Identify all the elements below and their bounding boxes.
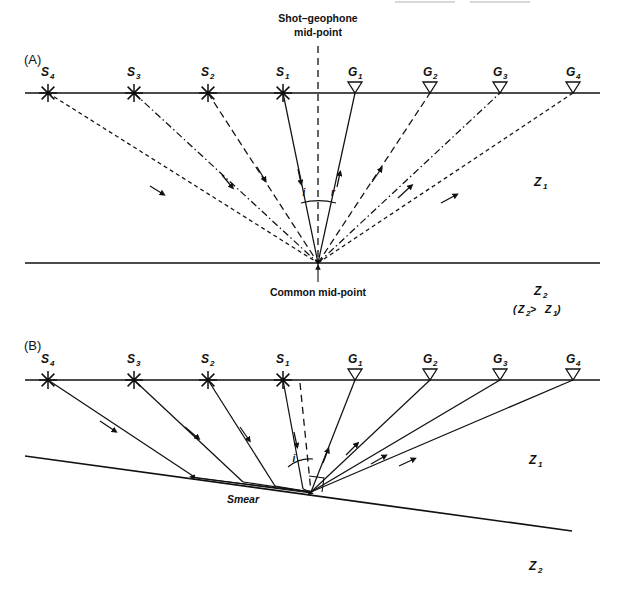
geophone-marker-b-g3[interactable] (493, 369, 507, 380)
ray-up-g3 (318, 93, 500, 263)
geophone-marker-g1[interactable] (348, 82, 362, 93)
zone-note-za: Z (517, 303, 525, 315)
station-label-g1-b-name: G (348, 352, 357, 366)
zone-note-a: ( Z 2 > Z 1 ) (513, 303, 561, 318)
zone-label-z1-b-name: Z (528, 453, 537, 467)
arrow-up-g4 (441, 195, 456, 203)
geophone-marker-g3[interactable] (493, 82, 507, 93)
arrow-down-s4 (150, 186, 163, 194)
panel-a (25, 46, 600, 282)
station-label-g3-b-sub: 3 (503, 359, 508, 368)
station-label-s4-b: S 4 (41, 352, 55, 368)
station-label-s1-a: S 1 (276, 65, 290, 81)
arrow-down-s3 (222, 175, 232, 187)
geophone-marker-b-g2[interactable] (423, 369, 437, 380)
station-label-s4-a-sub: 4 (49, 72, 55, 81)
station-label-g1-a: G 1 (348, 65, 363, 81)
geophone-marker-g4[interactable] (566, 82, 580, 93)
zone-label-z2-b-name: Z (528, 559, 537, 573)
station-label-s1-b-sub: 1 (285, 359, 290, 368)
station-label-g4-b-name: G (566, 352, 575, 366)
arrow-up-g2 (372, 169, 381, 182)
station-label-g4-b: G 4 (566, 352, 581, 368)
ray-up-g1 (318, 93, 355, 263)
zone-label-z1-a-name: Z (533, 175, 542, 189)
angle-r-label-a: r (331, 187, 336, 198)
station-label-g4-a-name: G (566, 65, 575, 79)
station-label-g2-b-name: G (423, 352, 432, 366)
zone-label-z2-b: Z 2 (528, 559, 543, 575)
shot-marker-s3[interactable] (125, 84, 143, 102)
geophone-marker-b-g1[interactable] (348, 369, 362, 380)
station-label-g2-b: G 2 (423, 352, 438, 368)
ray-up-b-g1 (311, 380, 355, 492)
panel-b (25, 369, 600, 531)
station-label-g2-a-sub: 2 (432, 72, 438, 81)
station-label-s4-b-sub: 4 (49, 359, 55, 368)
station-label-s3-b-sub: 3 (136, 359, 141, 368)
station-label-s4-a-name: S (41, 65, 49, 79)
panel-label-a: (A) (24, 52, 41, 67)
zone-label-z2-a: Z 2 (533, 284, 548, 300)
station-label-g3-a-sub: 3 (503, 72, 508, 81)
station-label-s3-a: S 3 (127, 65, 141, 81)
station-label-s2-a-sub: 2 (209, 72, 215, 81)
station-label-g1-b-sub: 1 (358, 359, 363, 368)
station-label-s2-b-name: S (201, 352, 209, 366)
shot-marker-b-s2[interactable] (199, 371, 217, 389)
station-label-g3-a: G 3 (493, 65, 508, 81)
station-label-s1-b: S 1 (276, 352, 290, 368)
shot-marker-b-s4[interactable] (39, 371, 57, 389)
station-label-s3-b: S 3 (127, 352, 141, 368)
shot-marker-s2[interactable] (199, 84, 217, 102)
zone-label-z1-b: Z 1 (528, 453, 543, 469)
common-midpoint-caption: Common mid-point (270, 286, 367, 298)
station-label-g1-a-name: G (348, 65, 357, 79)
station-label-s1-a-name: S (276, 65, 284, 79)
station-label-g2-a-name: G (423, 65, 432, 79)
station-label-g4-b-sub: 4 (575, 359, 581, 368)
cmp-ray-diagram: (A) (B) Shot–geophone mid-point Common m… (0, 0, 618, 591)
smear-label: Smear (227, 493, 260, 505)
zone-note-zb: Z (544, 303, 552, 315)
station-label-g2-b-sub: 2 (432, 359, 438, 368)
arrow-up-g3 (398, 186, 411, 198)
arrow-down-s2 (257, 167, 265, 180)
station-label-s3-b-name: S (127, 352, 135, 366)
station-label-s2-a-name: S (201, 65, 209, 79)
zone-note-close: ) (556, 303, 561, 315)
shot-marker-b-s3[interactable] (125, 371, 143, 389)
smear-extent-arrow (192, 477, 311, 493)
ray-up-b-g2 (311, 380, 430, 492)
zone-label-z2-b-sub: 2 (537, 566, 543, 575)
zone-label-z1-a: Z 1 (533, 175, 548, 191)
ray-up-b-g4 (311, 380, 573, 492)
shot-marker-s4[interactable] (39, 84, 57, 102)
ray-down-s3 (134, 93, 318, 263)
station-label-s1-b-name: S (276, 352, 284, 366)
shot-marker-b-s1[interactable] (274, 371, 292, 389)
station-label-g3-b: G 3 (493, 352, 508, 368)
shot-marker-s1[interactable] (274, 84, 292, 102)
station-label-s3-a-sub: 3 (136, 72, 141, 81)
station-label-s3-a-name: S (127, 65, 135, 79)
station-label-s4-b-name: S (41, 352, 49, 366)
angle-i-label-b: i (293, 453, 296, 464)
station-label-s4-a: S 4 (41, 65, 55, 81)
station-label-g3-a-name: G (493, 65, 502, 79)
geophone-marker-g2[interactable] (423, 82, 437, 93)
angle-i-label-a: i (303, 187, 306, 198)
station-label-g1-a-sub: 1 (358, 72, 363, 81)
zone-label-z1-a-sub: 1 (543, 182, 548, 191)
ray-down-b-s2 (208, 380, 275, 486)
station-label-s1-a-sub: 1 (285, 72, 290, 81)
station-label-s2-b: S 2 (201, 352, 215, 368)
station-label-s2-b-sub: 2 (209, 359, 215, 368)
station-label-g3-b-name: G (493, 352, 502, 366)
geophone-marker-b-g4[interactable] (566, 369, 580, 380)
panel-label-b: (B) (24, 338, 41, 353)
station-label-g1-b: G 1 (348, 352, 363, 368)
zone-label-z1-b-sub: 1 (538, 460, 543, 469)
station-label-s2-a: S 2 (201, 65, 215, 81)
arrow-up-b-g1 (323, 450, 328, 463)
